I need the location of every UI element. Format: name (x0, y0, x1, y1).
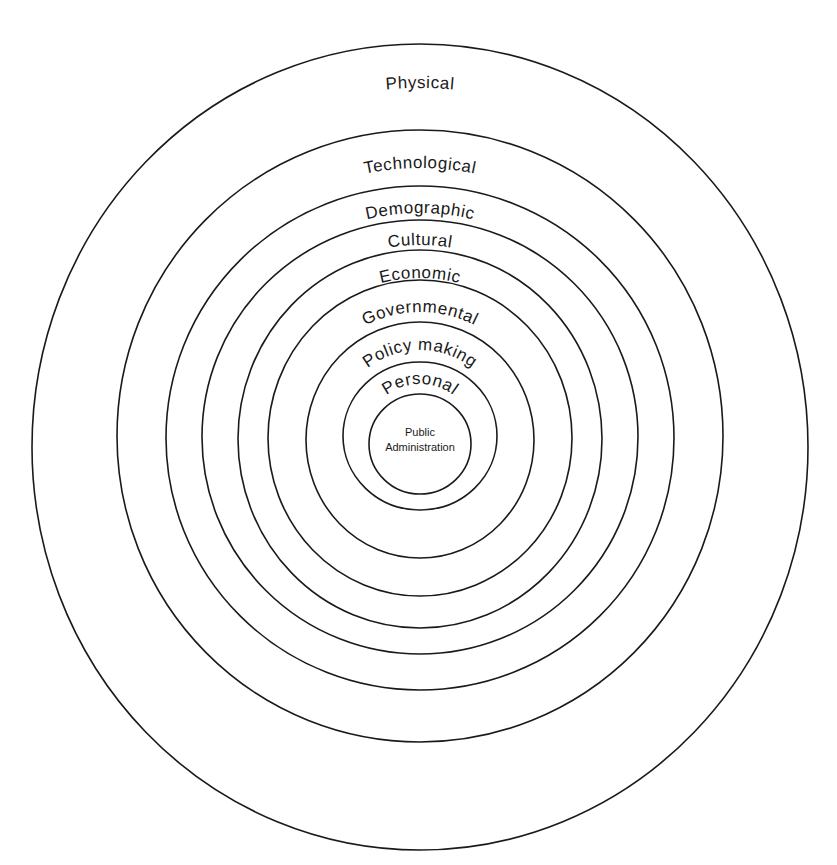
center-label-line2: Administration (385, 441, 455, 453)
layer-label-policy-making: Policy making (359, 335, 481, 372)
ring-governmental (268, 280, 572, 596)
layer-label-economic: Economic (377, 263, 462, 287)
layer-label-governmental: Governmental (359, 297, 482, 329)
layer-label-physical: Physical (385, 73, 455, 94)
ring-policy-making (306, 322, 534, 558)
ring-demographic (166, 186, 674, 690)
center-label-line1: Public (405, 426, 435, 438)
layer-label-cultural: Cultural (386, 230, 453, 252)
layer-label-technological: Technological (362, 153, 478, 178)
concentric-environment-diagram: Physical Technological Demographic Cultu… (0, 0, 837, 865)
